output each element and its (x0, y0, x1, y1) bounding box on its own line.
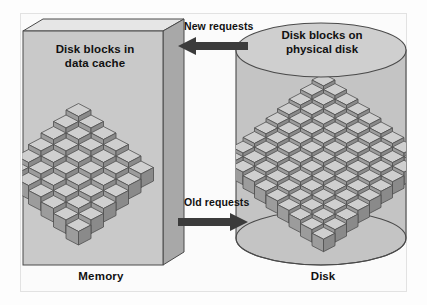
disk-cylinder-label: Disk blocks on physical disk (252, 28, 392, 56)
memory-caption: Memory (26, 270, 176, 282)
diagram-canvas: Disk blocks in data cache Memory Disk bl… (0, 0, 427, 305)
memory-box-label-line1: Disk blocks in (56, 43, 135, 55)
old-requests-arrow-icon (178, 212, 248, 232)
memory-box-label-line2: data cache (65, 57, 125, 69)
new-requests-arrow-icon (178, 36, 248, 56)
old-requests-label: Old requests (184, 196, 249, 208)
disk-cylinder-label-line1: Disk blocks on (281, 29, 362, 41)
memory-box-label: Disk blocks in data cache (30, 42, 160, 70)
disk-cylinder-label-line2: physical disk (286, 43, 358, 55)
new-requests-label: New requests (184, 20, 253, 32)
disk-caption: Disk (248, 270, 398, 282)
memory-box-top-face (23, 19, 184, 31)
disk-panel (232, 20, 410, 270)
